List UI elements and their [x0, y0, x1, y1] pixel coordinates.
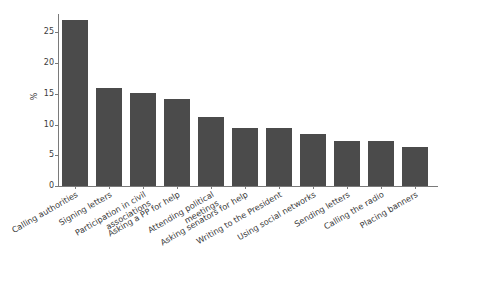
- y-axis-tick-label: 15: [32, 90, 54, 98]
- x-axis-tick-mark: [109, 186, 110, 189]
- bar: [130, 93, 157, 186]
- y-axis-tick-mark: [55, 125, 58, 126]
- y-axis-tick-mark: [55, 155, 58, 156]
- bar: [96, 88, 123, 186]
- x-axis-tick-mark: [143, 186, 144, 189]
- y-axis-tick-label: 25: [32, 28, 54, 36]
- y-axis-tick-mark: [55, 63, 58, 64]
- x-axis-tick-mark: [177, 186, 178, 189]
- y-axis-tick-mark: [55, 94, 58, 95]
- bar: [62, 20, 89, 186]
- bar-chart-figure: % 0510152025 Calling authoritiesSigning …: [0, 0, 495, 285]
- y-axis-tick-label: 10: [32, 121, 54, 129]
- y-axis-tick-mark: [55, 32, 58, 33]
- x-axis-tick-mark: [415, 186, 416, 189]
- bar: [198, 117, 225, 186]
- y-axis-tick-label: 0: [32, 182, 54, 190]
- bar: [402, 147, 429, 186]
- x-axis-tick-mark: [381, 186, 382, 189]
- x-axis-tick-mark: [245, 186, 246, 189]
- x-axis-tick-mark: [75, 186, 76, 189]
- plot-area: [58, 14, 432, 186]
- x-axis-tick-mark: [347, 186, 348, 189]
- x-axis-tick-mark: [279, 186, 280, 189]
- y-axis-tick-label: 5: [32, 151, 54, 159]
- x-axis-tick-mark: [313, 186, 314, 189]
- bar: [368, 141, 395, 186]
- bar: [232, 128, 259, 186]
- y-axis-tick-label: 20: [32, 59, 54, 67]
- bar: [164, 99, 191, 186]
- y-axis-tick-mark: [55, 186, 58, 187]
- bar: [300, 134, 327, 186]
- bar: [334, 141, 361, 186]
- x-axis-tick-mark: [211, 186, 212, 189]
- bar: [266, 128, 293, 186]
